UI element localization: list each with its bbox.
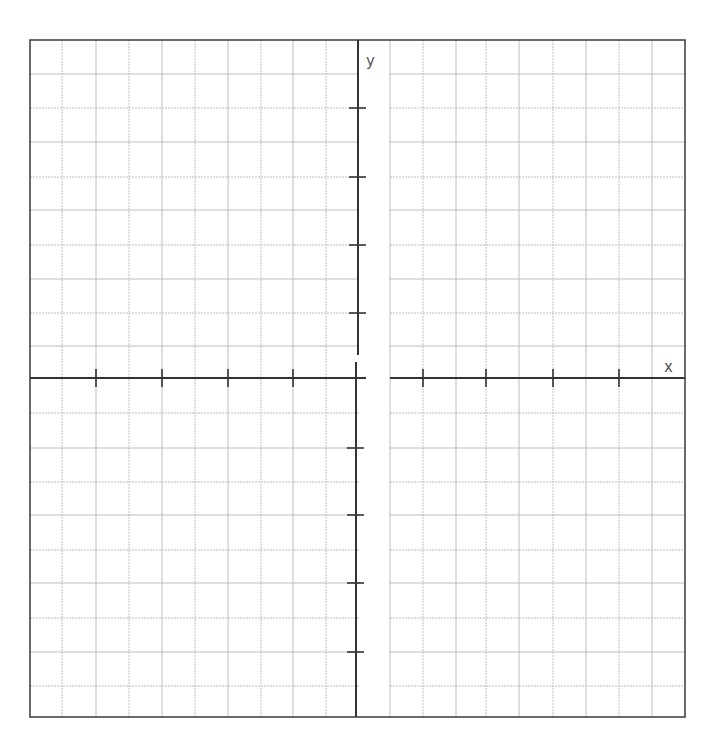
y-axis-label: y	[366, 52, 375, 70]
x-axis-label: x	[664, 358, 673, 376]
coordinate-grid-figure: y x	[0, 0, 713, 749]
coordinate-plane: y x	[0, 0, 713, 749]
